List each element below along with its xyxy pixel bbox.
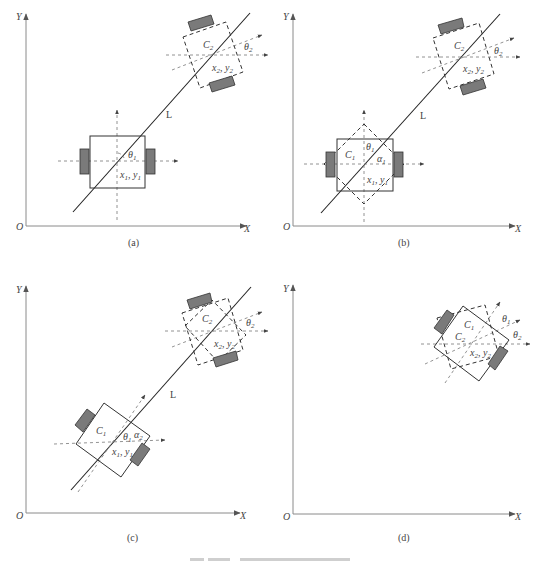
theta1-label: θ1: [366, 141, 374, 154]
origin-label: O: [283, 511, 290, 522]
origin-label: O: [16, 221, 23, 232]
y-axis-label: Y: [283, 11, 290, 22]
panel-caption: (b): [398, 237, 410, 249]
panel-d: Y O X C1 C2 θ1 θ2 x2, y2 (d): [283, 283, 530, 544]
panel-b: Y O X L C1 θ1 α1 x1, y1 C2 θ2 x2, y2: [283, 11, 522, 249]
robot-2: C2 θ2 x2, y2: [166, 15, 268, 92]
theta2-label: θ2: [513, 329, 522, 342]
center-label: x2, y2: [213, 338, 235, 351]
line-L: [73, 13, 250, 212]
wheel-right: [488, 346, 508, 370]
y-axis-label: Y: [16, 11, 23, 22]
robot-2: C2 θ2 x2, y2: [165, 293, 268, 367]
panel-caption: (c): [127, 532, 138, 544]
wheel-left: [80, 149, 89, 174]
robot-name: C2: [454, 40, 465, 53]
center-label: x2, y2: [211, 62, 233, 75]
center-label: x2, y2: [462, 63, 484, 76]
theta1-label: θ1: [123, 431, 131, 444]
wheel-bottom: [209, 76, 235, 92]
robot-name: C2: [203, 39, 214, 52]
x-axis-label: X: [243, 223, 251, 234]
center-label: x1, y1: [111, 446, 133, 459]
theta2-label: θ2: [494, 45, 503, 58]
center-label: x2, y2: [469, 347, 491, 360]
robot-name: C1: [96, 425, 106, 438]
x-axis-label: X: [239, 510, 247, 521]
theta2-label: θ2: [244, 41, 253, 54]
robot-name: C1: [345, 149, 355, 162]
robot-pair: C1 C2 θ1 θ2 x2, y2: [421, 302, 530, 383]
x-axis-label: X: [514, 223, 522, 234]
center-label: x1, y1: [366, 174, 388, 187]
robot-1: C1 θ1 α1 x1, y1: [304, 110, 424, 222]
wheel-top: [187, 293, 212, 309]
wheel-top: [188, 15, 214, 31]
wheel-right: [394, 152, 403, 177]
y-axis-label: Y: [283, 283, 290, 294]
line-L-label: L: [420, 110, 426, 121]
robot-1: C1 θ1 α2 x1, y1: [54, 395, 165, 492]
panel-c: Y O X L C1 θ1 α2 x1, y1 C2 θ2 x2, y2: [16, 284, 268, 544]
wheel-top: [438, 18, 464, 34]
line-L: [321, 14, 500, 213]
robot-name: C2: [202, 313, 213, 326]
origin-label: O: [16, 510, 23, 521]
wheel-bottom: [460, 79, 486, 95]
theta1-label: θ1: [502, 313, 510, 326]
wheel-bottom: [213, 351, 238, 367]
line-L-label: L: [170, 389, 176, 400]
panel-caption: (d): [398, 532, 410, 544]
robot-2-name: C2: [455, 331, 466, 344]
robot-1: θ1 x1, y1: [58, 110, 178, 220]
center-label: x1, y1: [119, 169, 141, 182]
panel-a: Y O X L θ1 x1, y1 C2 θ2 x2, y2 (a): [16, 11, 268, 249]
wheel-left: [326, 152, 335, 177]
line-L-label: L: [166, 109, 172, 120]
panel-caption: (a): [128, 237, 139, 249]
theta1-label: θ1: [128, 149, 136, 162]
x-axis-label: X: [514, 511, 522, 522]
robot-2: C2 θ2 x2, y2: [416, 18, 520, 95]
robot-1-name: C1: [464, 319, 474, 332]
figure-canvas: Y O X L θ1 x1, y1 C2 θ2 x2, y2 (a): [0, 0, 542, 561]
y-axis-label: Y: [16, 284, 23, 295]
wheel-right: [130, 443, 150, 466]
alpha2-label: α2: [134, 429, 143, 442]
heading-arrow-horizontal: [54, 440, 165, 444]
theta2-label: θ2: [246, 317, 255, 330]
wheel-right: [146, 149, 155, 174]
origin-label: O: [283, 221, 290, 232]
wheel-left: [434, 310, 454, 334]
